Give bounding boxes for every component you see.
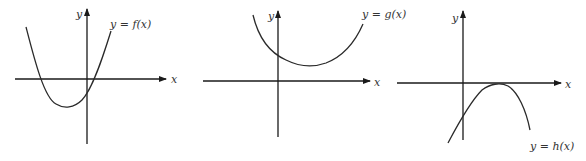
- graph-f: y y = f(x) x: [15, 8, 178, 144]
- graph-h: y y = h(x) x: [397, 11, 574, 153]
- equation-label: y = g(x): [361, 8, 406, 21]
- y-axis-label: y: [75, 8, 83, 21]
- equation-label: y = f(x): [109, 18, 151, 31]
- equation-label: y = h(x): [529, 140, 574, 153]
- x-axis-label: x: [565, 78, 572, 91]
- curve-h: [448, 84, 530, 143]
- x-axis-label: x: [374, 76, 381, 89]
- y-axis-label: y: [451, 12, 459, 25]
- x-axis-label: x: [171, 73, 178, 86]
- graph-g: y y = g(x) x: [203, 8, 406, 137]
- y-axis-label: y: [267, 10, 275, 23]
- curve-f: [26, 27, 111, 107]
- figure-three-parabolas: y y = f(x) x y y = g(x) x y y = h(x) x: [0, 0, 586, 161]
